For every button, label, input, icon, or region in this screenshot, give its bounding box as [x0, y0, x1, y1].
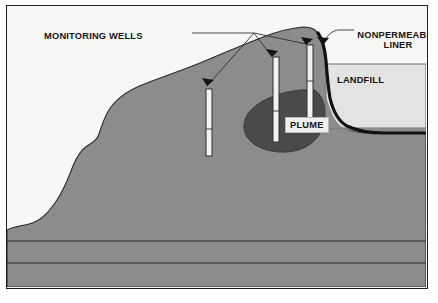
landfill-box: [326, 64, 426, 128]
label-landfill: LANDFILL: [337, 75, 384, 85]
label-plume: PLUME: [285, 117, 329, 133]
leader-line-nonpermeable-liner: [324, 30, 354, 43]
monitoring-well-right: [307, 45, 313, 126]
label-monitoring-wells: MONITORING WELLS: [44, 31, 143, 41]
diagram-frame: MONITORING WELLS NONPERMEABLE LINER LAND…: [6, 5, 428, 289]
label-nonpermeable-liner: NONPERMEABLE LINER: [356, 30, 428, 51]
monitoring-well-left: [206, 89, 212, 156]
figure-root: MONITORING WELLS NONPERMEABLE LINER LAND…: [0, 0, 438, 303]
monitoring-well-middle: [273, 57, 279, 142]
